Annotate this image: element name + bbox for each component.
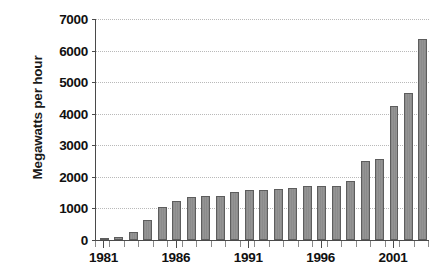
x-axis-tick-mark [341, 241, 342, 247]
bar-chart: Megawatts per hour 010002000300040005000… [0, 0, 435, 280]
x-axis-tick-mark [356, 241, 357, 247]
bar [201, 196, 210, 240]
bar [361, 161, 370, 240]
y-axis-tick-label: 1000 [36, 201, 88, 216]
x-axis-tick-mark [414, 241, 415, 247]
x-axis-major-tick-mark [393, 241, 394, 248]
x-axis-tick-mark [399, 241, 400, 247]
bar [404, 93, 413, 240]
x-axis-tick-mark [124, 241, 125, 247]
x-axis-major-tick-mark [176, 241, 177, 248]
y-axis-tick-label: 3000 [36, 138, 88, 153]
x-axis-tick-mark [167, 241, 168, 247]
bar [230, 192, 239, 240]
x-axis-tick-mark [138, 241, 139, 247]
bar [274, 189, 283, 240]
x-axis-tick-mark [109, 241, 110, 247]
y-axis-tick-label: 0 [36, 233, 88, 248]
x-axis-tick-mark [95, 241, 96, 247]
bar [100, 238, 109, 240]
bar-series [96, 19, 429, 240]
y-axis-tick-label: 5000 [36, 75, 88, 90]
bar [332, 186, 341, 240]
x-axis-tick-labels: 19811986199119962001 [95, 250, 428, 274]
x-axis-tick-mark [370, 241, 371, 247]
bar [172, 201, 181, 240]
bar [129, 232, 138, 240]
y-axis-tick-label: 7000 [36, 12, 88, 27]
bar [418, 39, 427, 240]
x-axis-tick-mark [269, 241, 270, 247]
bar [346, 181, 355, 240]
x-axis-major-tick-mark [103, 241, 104, 248]
y-axis-tick-label: 2000 [36, 169, 88, 184]
x-axis-tick-label: 1991 [218, 250, 278, 265]
x-axis-tick-marks [95, 241, 428, 248]
x-axis-tick-label: 1981 [73, 250, 133, 265]
x-axis-tick-mark [196, 241, 197, 247]
x-axis-tick-mark [153, 241, 154, 247]
x-axis-major-tick-mark [248, 241, 249, 248]
bar [245, 190, 254, 240]
x-axis-tick-mark [385, 241, 386, 247]
bar [114, 237, 123, 240]
bar [158, 207, 167, 240]
bar [187, 197, 196, 240]
bar [317, 186, 326, 240]
x-axis-tick-label: 1996 [291, 250, 351, 265]
plot-area [95, 19, 429, 241]
x-axis-tick-mark [428, 241, 429, 247]
x-axis-tick-mark [211, 241, 212, 247]
x-axis-tick-label: 2001 [363, 250, 423, 265]
x-axis-tick-label: 1986 [146, 250, 206, 265]
x-axis-major-tick-mark [321, 241, 322, 248]
x-axis-tick-mark [240, 241, 241, 247]
bar [303, 186, 312, 240]
bar [259, 190, 268, 240]
x-axis-tick-mark [283, 241, 284, 247]
x-axis-tick-mark [298, 241, 299, 247]
bar [375, 159, 384, 240]
y-axis-tick-labels: 01000200030004000500060007000 [34, 0, 88, 280]
x-axis-tick-mark [312, 241, 313, 247]
bar [390, 106, 399, 240]
x-axis-tick-mark [225, 241, 226, 247]
bar [288, 188, 297, 240]
y-axis-tick-label: 6000 [36, 43, 88, 58]
bar [143, 220, 152, 240]
bar [216, 196, 225, 240]
x-axis-tick-mark [182, 241, 183, 247]
x-axis-tick-mark [254, 241, 255, 247]
x-axis-tick-mark [327, 241, 328, 247]
y-axis-tick-label: 4000 [36, 106, 88, 121]
